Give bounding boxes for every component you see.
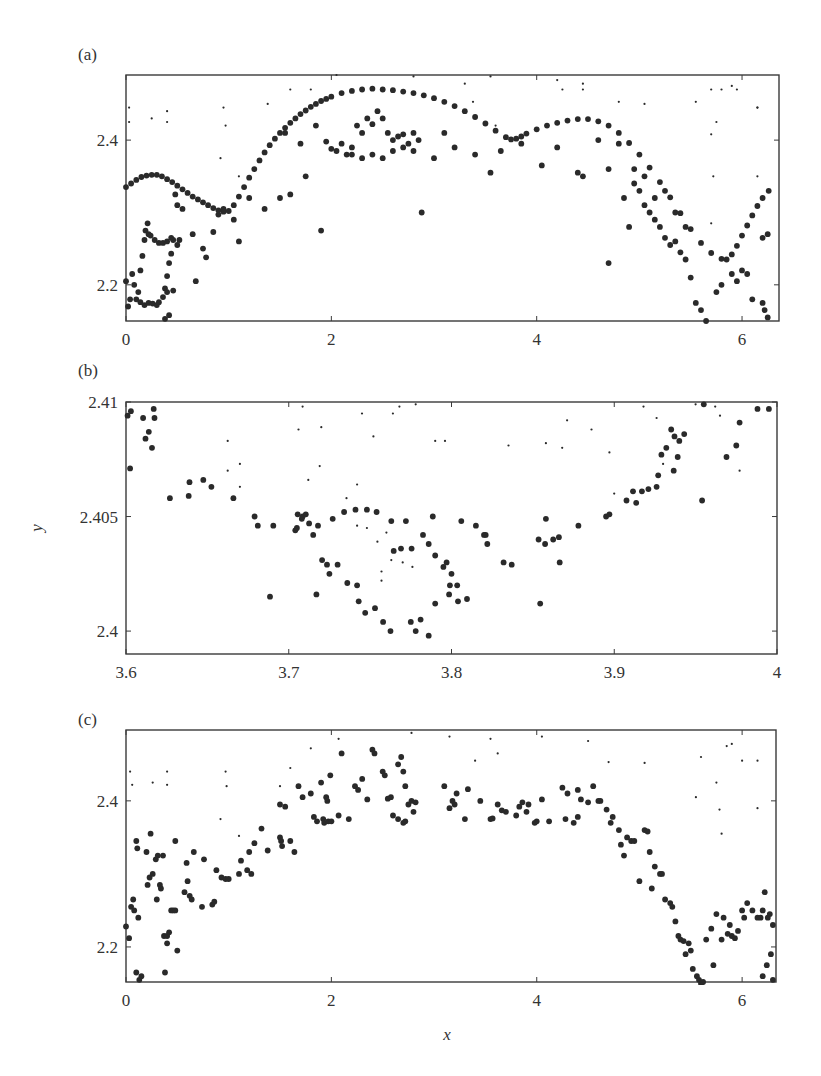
small-data-point (225, 771, 227, 773)
data-point (375, 108, 381, 114)
data-point (255, 523, 261, 529)
data-point (140, 253, 146, 259)
data-point (760, 235, 766, 241)
data-point (659, 452, 665, 458)
data-point (152, 415, 158, 421)
data-points (123, 74, 772, 324)
data-point (737, 420, 743, 426)
data-point (172, 192, 178, 198)
data-points (125, 401, 772, 638)
data-point (277, 130, 283, 136)
data-point (123, 278, 129, 284)
small-data-point (380, 570, 382, 572)
data-point (683, 951, 689, 957)
data-point (339, 141, 345, 147)
data-point (395, 134, 401, 140)
data-point (241, 184, 247, 190)
data-point (143, 436, 149, 442)
data-point (355, 787, 361, 793)
data-point (306, 521, 312, 527)
plot-frame (126, 730, 776, 982)
data-point (607, 511, 613, 517)
data-point (200, 199, 206, 205)
data-point (501, 560, 507, 566)
data-point (174, 202, 180, 208)
x-tick-label: 3.9 (604, 663, 625, 682)
data-point (203, 254, 209, 260)
data-point (518, 141, 524, 147)
data-point (128, 408, 134, 414)
small-data-point (279, 785, 281, 787)
data-point (741, 915, 747, 921)
data-point (210, 205, 216, 211)
data-point (398, 546, 404, 552)
data-point (136, 977, 142, 983)
data-point (123, 184, 129, 190)
data-point (554, 145, 560, 151)
data-point (257, 158, 263, 164)
small-data-point (372, 435, 374, 437)
data-point (542, 541, 548, 547)
data-point (495, 802, 501, 808)
data-point (676, 438, 682, 444)
small-data-point (239, 486, 241, 488)
data-point (180, 186, 186, 192)
data-point (372, 751, 378, 757)
small-data-point (166, 784, 168, 786)
data-point (135, 915, 141, 921)
data-point (458, 518, 464, 524)
data-point (416, 137, 422, 143)
small-data-point (410, 732, 412, 734)
data-point (431, 155, 437, 161)
data-point (236, 194, 242, 200)
data-point (409, 546, 415, 552)
data-point (520, 799, 526, 805)
small-data-point (590, 428, 592, 430)
data-point (262, 206, 268, 212)
small-data-point (741, 760, 743, 762)
small-data-point (289, 767, 291, 769)
small-data-point (319, 465, 321, 467)
data-point (699, 498, 705, 504)
data-point (144, 173, 150, 179)
data-point (719, 937, 725, 943)
small-data-point (715, 782, 717, 784)
data-point (477, 798, 483, 804)
data-point (150, 871, 156, 877)
data-point (214, 867, 220, 873)
small-data-point (366, 527, 368, 529)
data-point (402, 818, 408, 824)
data-point (282, 125, 288, 131)
data-point (169, 179, 175, 185)
data-point (760, 973, 766, 979)
data-point (765, 315, 771, 321)
data-point (359, 130, 365, 136)
data-point (170, 288, 176, 294)
data-point (238, 858, 244, 864)
data-point (524, 809, 530, 815)
data-point (575, 170, 581, 176)
data-point (571, 820, 577, 826)
small-data-point (582, 88, 584, 90)
data-point (624, 498, 630, 504)
x-tick-label: 2 (327, 991, 336, 1010)
data-point (472, 114, 478, 120)
data-point (647, 210, 653, 216)
small-data-point (392, 412, 394, 414)
data-point (174, 242, 180, 248)
data-point (408, 619, 414, 625)
data-point (293, 116, 299, 122)
data-point (185, 878, 191, 884)
data-point (762, 889, 768, 895)
data-point (441, 130, 447, 136)
small-data-point (613, 493, 615, 495)
data-point (303, 173, 309, 179)
data-point (330, 516, 336, 522)
data-point (760, 300, 766, 306)
data-point (681, 431, 687, 437)
data-point (265, 848, 271, 854)
small-data-point (561, 88, 563, 90)
small-data-point (310, 88, 312, 90)
small-data-point (219, 818, 221, 820)
data-point (128, 181, 134, 187)
